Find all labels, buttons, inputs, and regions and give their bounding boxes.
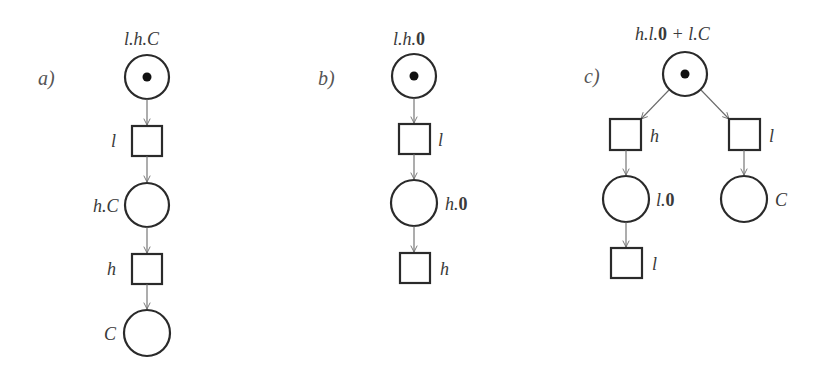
- panel-b-label: b): [318, 67, 335, 90]
- transition-h: [400, 253, 430, 283]
- place-label: l.0: [656, 190, 675, 210]
- panel-a: a) l.h.C l h.C h C: [38, 29, 170, 356]
- place-label: h.C: [93, 196, 120, 216]
- place-h0: [391, 180, 437, 226]
- panel-c-label: c): [584, 65, 600, 88]
- panel-c-top-label: h.l.0 + l.C: [635, 24, 711, 44]
- transition-l: [729, 119, 760, 150]
- arc: [641, 90, 669, 119]
- transition-label: l: [652, 254, 657, 274]
- token-icon: [681, 70, 690, 79]
- place-label: C: [104, 324, 117, 344]
- transition-l: [399, 124, 430, 154]
- place-label: C: [775, 190, 788, 210]
- token-icon: [410, 72, 419, 81]
- panel-c: c) h.l.0 + l.C h l l.0 C l: [584, 24, 788, 278]
- transition-label: h: [650, 126, 659, 146]
- transition-label: h: [107, 259, 116, 279]
- place-label: h.0: [445, 194, 468, 214]
- transition-label: h: [440, 259, 449, 279]
- place-l0: [603, 176, 649, 222]
- arc: [701, 90, 729, 119]
- panel-a-label: a): [38, 67, 55, 90]
- place-C: [721, 176, 767, 222]
- transition-label: l: [438, 130, 443, 150]
- transition-label: l: [111, 131, 116, 151]
- token-icon: [143, 73, 152, 82]
- panel-b-top-label: l.h.0: [393, 29, 425, 49]
- panel-a-top-label: l.h.C: [124, 29, 160, 49]
- transition-h: [132, 254, 162, 284]
- transition-l: [132, 126, 162, 156]
- place-hC: [125, 183, 169, 227]
- transition-label: l: [769, 126, 774, 146]
- panel-b: b) l.h.0 l h.0 h: [318, 29, 468, 283]
- transition-h: [610, 119, 641, 150]
- place-C: [124, 310, 170, 356]
- transition-l: [611, 248, 642, 278]
- petri-net-diagram: a) l.h.C l h.C h C b) l.h.0 l h.0 h c: [0, 0, 825, 375]
